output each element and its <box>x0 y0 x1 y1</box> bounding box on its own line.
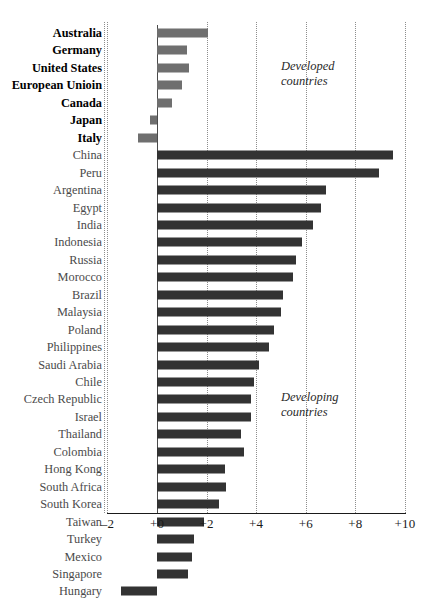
bar <box>157 290 283 299</box>
bar <box>157 220 313 229</box>
bar <box>157 308 281 317</box>
annotation-line: Developing <box>281 390 339 405</box>
category-label: Italy <box>77 132 102 144</box>
bar <box>157 465 225 474</box>
category-label: Peru <box>79 166 102 178</box>
category-label: Japan <box>70 114 102 126</box>
category-label: Singapore <box>52 568 102 580</box>
gridline-plus2 <box>207 22 208 513</box>
bar <box>157 569 188 578</box>
category-label: Hungary <box>59 585 102 597</box>
gridline-plus4 <box>256 22 257 513</box>
bar <box>157 255 296 264</box>
category-label: Canada <box>61 97 102 109</box>
category-label: Chile <box>75 376 102 388</box>
x-tick-label: +10 <box>395 516 416 532</box>
gridline-plus8 <box>355 22 356 513</box>
bar <box>157 63 189 72</box>
category-label: Germany <box>52 44 102 56</box>
category-label: Israel <box>75 411 102 423</box>
bar <box>157 98 172 107</box>
x-tick-label: –2 <box>101 516 114 532</box>
category-label: Egypt <box>73 201 102 213</box>
bar <box>157 412 251 421</box>
x-tick-label: +2 <box>199 516 213 532</box>
category-label: South Korea <box>40 498 102 510</box>
bar <box>157 238 302 247</box>
annotation-line: Developed <box>281 59 334 74</box>
category-label: Hong Kong <box>44 463 102 475</box>
category-label: Brazil <box>72 289 102 301</box>
category-label: Indonesia <box>54 236 102 248</box>
x-tick-label: +8 <box>348 516 362 532</box>
x-axis-line <box>107 513 406 514</box>
bar <box>157 203 321 212</box>
category-label: Philippines <box>47 341 102 353</box>
developing-countries-annotation: Developingcountries <box>281 390 339 420</box>
x-tick-label: +6 <box>299 516 313 532</box>
category-label: Turkey <box>67 533 102 545</box>
x-tick-label: +4 <box>249 516 263 532</box>
bar <box>157 273 293 282</box>
category-label: Australia <box>53 27 102 39</box>
category-label: Thailand <box>58 428 102 440</box>
category-label: Czech Republic <box>24 393 102 405</box>
developed-countries-annotation: Developedcountries <box>281 59 334 89</box>
category-label: Russia <box>69 254 102 266</box>
x-tick-label: +0 <box>150 516 164 532</box>
category-label: Morocco <box>58 271 102 283</box>
bar <box>157 325 274 334</box>
bar <box>150 116 157 125</box>
category-label: Malaysia <box>57 306 102 318</box>
bar <box>157 500 219 509</box>
category-label: Colombia <box>53 446 102 458</box>
category-label: United States <box>32 62 102 74</box>
category-label: European Unioin <box>12 79 102 91</box>
gridline-plus6 <box>306 22 307 513</box>
category-label: India <box>77 219 102 231</box>
bar <box>157 29 208 38</box>
category-label: Argentina <box>53 184 102 196</box>
bar <box>157 151 393 160</box>
bar <box>157 378 254 387</box>
category-label: Taiwan <box>66 515 102 527</box>
bar <box>157 360 259 369</box>
annotation-line: countries <box>281 405 339 420</box>
gridline-plus10 <box>405 22 406 513</box>
bar <box>157 343 269 352</box>
bar <box>157 46 187 55</box>
category-label: China <box>73 149 102 161</box>
bar <box>138 133 157 142</box>
category-label: Saudi Arabia <box>38 358 102 370</box>
bar <box>157 482 226 491</box>
bar <box>157 186 326 195</box>
bar <box>157 395 251 404</box>
bar <box>157 81 182 90</box>
bar <box>157 552 192 561</box>
bar <box>157 430 241 439</box>
gridline-minus2 <box>107 22 108 513</box>
category-label: Poland <box>68 323 102 335</box>
category-label: South Africa <box>40 481 103 493</box>
annotation-line: countries <box>281 74 334 89</box>
bar <box>157 447 244 456</box>
bar <box>157 168 379 177</box>
bar <box>157 535 194 544</box>
bar <box>121 587 157 596</box>
category-label: Mexico <box>64 550 102 562</box>
label-separator-rule <box>104 22 105 513</box>
